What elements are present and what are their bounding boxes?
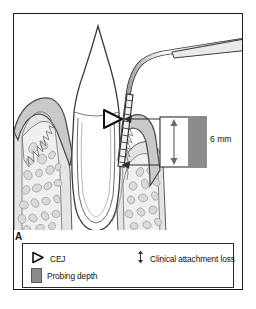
periodontal-probing-figure: 6 mm A CEJ Probing depth C xyxy=(0,0,256,309)
panel-label: A xyxy=(15,232,22,242)
measurement-label: 6 mm xyxy=(210,134,231,144)
tooth xyxy=(72,26,120,231)
legend-item-clinical-attachment-loss: Clinical attachment loss xyxy=(136,250,235,268)
probing-depth-bar xyxy=(188,118,205,167)
legend-item-cej: CEJ xyxy=(31,250,65,268)
legend-label-probing-depth: Probing depth xyxy=(47,271,97,281)
double-arrow-vertical-icon xyxy=(136,250,145,268)
legend-label-clinical-attachment-loss: Clinical attachment loss xyxy=(150,254,235,264)
legend: CEJ Probing depth Clinical attachment lo… xyxy=(22,243,234,288)
legend-item-probing-depth: Probing depth xyxy=(31,268,97,283)
triangle-outline-icon xyxy=(31,250,45,268)
gray-swatch-icon xyxy=(31,268,42,283)
tooth-outline xyxy=(72,26,120,231)
legend-label-cej: CEJ xyxy=(50,254,65,264)
